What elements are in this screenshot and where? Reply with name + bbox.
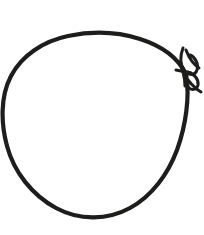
background [0, 0, 204, 235]
drawing-canvas: A single closed loop of cord or rope dra… [0, 0, 204, 235]
rope-loop-drawing: A single closed loop of cord or rope dra… [0, 0, 204, 235]
